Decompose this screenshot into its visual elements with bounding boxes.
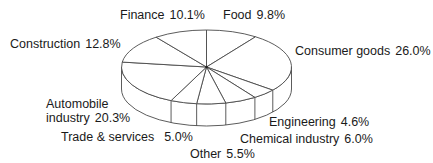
label-value: 10.1%	[169, 8, 204, 22]
label-finance: Finance10.1%	[120, 8, 205, 22]
label-other: Other5.5%	[190, 147, 255, 161]
label-text: Engineering	[269, 115, 336, 129]
label-engineering: Engineering4.6%	[269, 115, 369, 129]
label-value: 9.8%	[257, 8, 286, 22]
label-text: Other	[190, 147, 221, 161]
label-text: Finance	[120, 8, 164, 22]
label-construction: Construction12.8%	[10, 37, 121, 51]
label-value: 5.5%	[226, 147, 255, 161]
label-value: 26.0%	[395, 44, 430, 58]
label-chemical-industry: Chemical industry6.0%	[240, 132, 373, 146]
label-text: Consumer goods	[295, 44, 390, 58]
label-value: 5.0%	[164, 130, 193, 144]
label-text: industry	[46, 111, 90, 125]
label-text: Trade & services	[61, 130, 154, 144]
label-text: Chemical industry	[240, 132, 339, 146]
label-value: 6.0%	[344, 132, 373, 146]
label-text: Automobile	[46, 97, 130, 111]
label-value: 20.3%	[95, 111, 130, 125]
label-value: 4.6%	[341, 115, 370, 129]
pie-3d	[122, 30, 292, 126]
label-text: Construction	[10, 37, 80, 51]
label-consumer-goods: Consumer goods26.0%	[295, 44, 431, 58]
label-text: Food	[223, 8, 252, 22]
pie-center-dot	[205, 66, 208, 69]
label-value: 12.8%	[85, 37, 120, 51]
label-food: Food9.8%	[223, 8, 285, 22]
label-trade-services: Trade & services5.0%	[61, 130, 193, 144]
label-automobile: Automobile industry20.3%	[46, 97, 130, 125]
